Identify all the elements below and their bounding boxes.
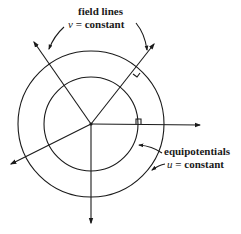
field-lines-leader-right bbox=[136, 23, 147, 50]
field-line-lower-left bbox=[11, 124, 91, 164]
field-line-right bbox=[91, 124, 200, 125]
equipotentials-title: equipotentials bbox=[164, 145, 231, 157]
field-line-upper-left bbox=[34, 42, 91, 124]
field-lines-equation: v = constant bbox=[68, 18, 125, 30]
field-lines-title: field lines bbox=[78, 5, 124, 17]
center-point bbox=[89, 122, 92, 125]
equipotentials-eq-text: = constant bbox=[173, 158, 225, 170]
field-line-upper-right bbox=[91, 44, 154, 124]
equipotentials-leader-outer bbox=[152, 164, 165, 170]
field-lines-diagram: field lines v = constant equipotentials … bbox=[0, 0, 241, 234]
field-lines-leader-left bbox=[49, 27, 64, 49]
equipotentials-equation: u = constant bbox=[167, 158, 224, 170]
field-lines-eq-text: = constant bbox=[73, 18, 125, 30]
right-angle-mark-outer bbox=[133, 73, 140, 77]
